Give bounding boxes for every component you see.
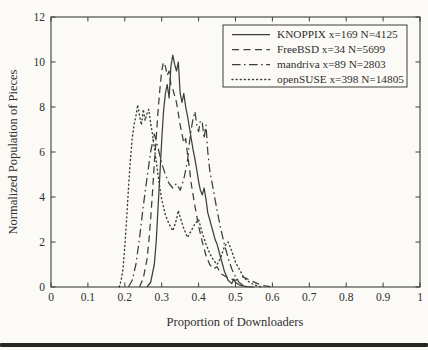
legend-entry-label-knoppix: KNOPPIX x=169 N=4125: [277, 28, 398, 40]
y-tick-label: 6: [39, 146, 45, 158]
x-tick-label: 0.3: [155, 291, 170, 303]
page-bottom-rule: [0, 343, 428, 347]
y-tick-label: 10: [34, 56, 46, 68]
legend-entry-label-freebsd: FreeBSD x=34 N=5699: [277, 43, 385, 55]
x-tick-label: 0.4: [191, 291, 206, 303]
x-tick-label: 0.6: [265, 291, 280, 303]
legend-entry-label-mandriva: mandriva x=89 N=2803: [277, 58, 386, 70]
x-tick-label: 0.2: [118, 291, 133, 303]
y-tick-label: 8: [39, 101, 45, 113]
x-tick-label: 0.1: [81, 291, 96, 303]
x-tick-label: 0.9: [376, 291, 391, 303]
x-tick-label: 0.7: [302, 291, 317, 303]
x-tick-label: 1: [417, 291, 423, 303]
y-axis-label: Normalized Population of Pieces: [6, 69, 20, 234]
x-axis-label: Proportion of Downloaders: [167, 315, 304, 329]
line-chart: 00.10.20.30.40.50.60.70.80.91024681012KN…: [0, 0, 428, 350]
y-tick-label: 2: [39, 236, 45, 248]
series-line-knoppix: [147, 55, 254, 287]
x-tick-label: 0: [48, 291, 54, 303]
x-tick-label: 0.5: [228, 291, 243, 303]
y-tick-label: 0: [39, 281, 45, 293]
x-tick-label: 0.8: [339, 291, 354, 303]
legend-entry-label-opensuse: openSUSE x=398 N=14805: [277, 73, 404, 85]
y-tick-label: 4: [39, 191, 45, 203]
scanned-figure-page: 00.10.20.30.40.50.60.70.80.91024681012KN…: [0, 0, 428, 350]
y-tick-label: 12: [34, 11, 46, 23]
